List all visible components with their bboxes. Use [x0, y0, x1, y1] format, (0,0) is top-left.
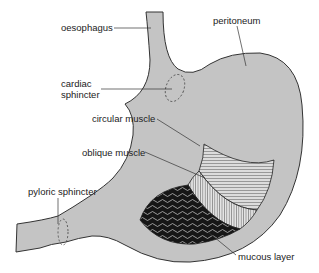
- label-oblique-muscle: oblique muscle: [82, 147, 145, 158]
- label-cardiac-sphincter-line2: sphincter: [61, 89, 100, 100]
- stomach-diagram: oesophagus peritoneum cardiac sphincter …: [0, 0, 319, 273]
- label-mucous-layer: mucous layer: [238, 251, 295, 262]
- stomach-illustration: [0, 0, 319, 273]
- label-oesophagus: oesophagus: [61, 22, 113, 33]
- label-circular-muscle: circular muscle: [92, 113, 155, 124]
- label-pyloric-sphincter: pyloric sphincter: [28, 186, 97, 197]
- label-peritoneum: peritoneum: [213, 15, 261, 26]
- label-cardiac-sphincter-line1: cardiac: [61, 78, 92, 89]
